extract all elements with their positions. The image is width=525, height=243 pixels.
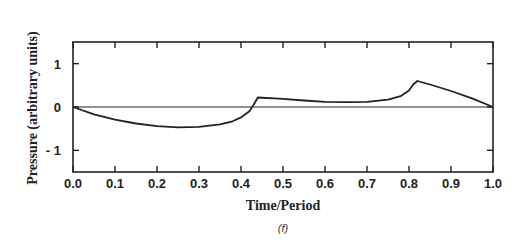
y-axis-label: Pressure (arbitrary units): [25, 31, 41, 185]
data-lines: [73, 81, 493, 127]
x-axis-ticks: 0.00.10.20.30.40.50.60.70.80.91.0: [64, 42, 502, 191]
x-tick-label: 0.3: [190, 176, 208, 191]
x-tick-label: 0.8: [400, 176, 418, 191]
x-tick-label: 0.6: [316, 176, 334, 191]
y-tick-label: 0: [54, 100, 61, 115]
x-tick-label: 0.2: [148, 176, 166, 191]
svg-text:Pressure (arbitrary units): Pressure (arbitrary units): [25, 31, 41, 185]
pressure-chart: Pressure (arbitrary units) 10- 1 0.00.10…: [0, 0, 525, 243]
x-tick-label: 0.5: [274, 176, 292, 191]
x-tick-label: 0.4: [232, 176, 251, 191]
x-tick-label: 1.0: [484, 176, 502, 191]
y-tick-label: - 1: [46, 143, 61, 158]
figure-caption: (f): [278, 222, 289, 234]
pressure-line: [73, 81, 493, 127]
x-tick-label: 0.1: [106, 176, 124, 191]
x-tick-label: 0.0: [64, 176, 82, 191]
x-tick-label: 0.7: [358, 176, 376, 191]
x-tick-label: 0.9: [442, 176, 460, 191]
y-tick-label: 1: [54, 57, 61, 72]
x-axis-label: Time/Period: [246, 198, 321, 213]
